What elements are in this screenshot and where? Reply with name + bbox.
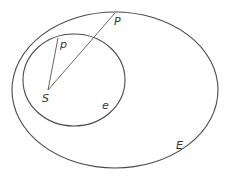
segment-S-to-p: [48, 38, 58, 90]
label-S: S: [42, 92, 49, 105]
label-p: p: [59, 38, 67, 51]
ellipse-diagram: P p S e E: [0, 0, 226, 176]
outer-ellipse-E: [12, 12, 218, 168]
label-E: E: [176, 139, 183, 152]
inner-ellipse-e: [23, 34, 125, 126]
label-P: P: [114, 15, 121, 28]
label-e: e: [102, 99, 109, 112]
